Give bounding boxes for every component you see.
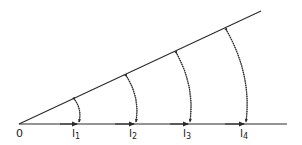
rotation-diagram: 0 l1 l2 l3 l4	[0, 0, 302, 145]
point-label-l3: l3	[183, 127, 191, 141]
rotation-arc-1	[75, 100, 80, 122]
point-label-l4: l4	[240, 127, 248, 141]
rotation-arc-4	[227, 31, 247, 122]
rotation-arc-3	[177, 54, 191, 122]
point-label-l2: l2	[129, 127, 137, 141]
origin-label: 0	[16, 127, 23, 140]
rotation-arc-2	[127, 77, 137, 122]
point-label-l1: l1	[72, 127, 80, 141]
inclined-ray	[19, 11, 261, 124]
